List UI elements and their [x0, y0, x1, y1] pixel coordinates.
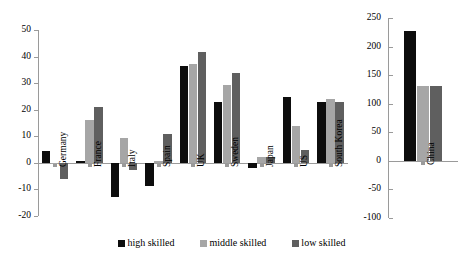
y-tick-label-1-1: 200 — [355, 42, 381, 52]
x-category-label-sweden: Sweden — [231, 137, 241, 167]
y-axis-line-1 — [388, 18, 389, 218]
x-category-label-france: France — [94, 141, 104, 167]
y-tick-1-3 — [389, 104, 393, 105]
bar-uk-low — [198, 52, 207, 163]
x-tick-0-2 — [122, 164, 126, 167]
legend-label: low skilled — [301, 238, 345, 248]
x-category-label-japan: Japan — [266, 145, 276, 167]
legend-label: high skilled — [127, 238, 174, 248]
x-tick-0-0 — [53, 164, 57, 167]
bar-japan-high — [248, 163, 257, 168]
y-tick-label-1-0: 250 — [355, 13, 381, 23]
x-category-label-germany: Germany — [59, 132, 69, 167]
bar-south-korea-high — [317, 102, 326, 163]
legend-item-low: low skilled — [292, 238, 345, 248]
y-tick-label-0-1: 40 — [5, 52, 31, 62]
y-tick-0-3 — [34, 110, 38, 111]
x-tick-0-7 — [294, 164, 298, 167]
y-tick-0-1 — [34, 57, 38, 58]
y-tick-1-0 — [389, 18, 393, 19]
y-tick-1-7 — [389, 218, 393, 219]
legend-item-high: high skilled — [118, 238, 174, 248]
y-tick-label-1-2: 150 — [355, 70, 381, 80]
y-tick-1-6 — [389, 189, 393, 190]
x-category-label-south-korea: South Korea — [335, 119, 345, 167]
x-category-label-china: China — [427, 142, 437, 165]
y-tick-label-1-5: 0 — [355, 156, 381, 166]
bar-germany-high — [42, 151, 51, 163]
legend-swatch-middle-icon — [200, 240, 207, 247]
y-tick-label-1-6: -50 — [355, 184, 381, 194]
x-category-label-spain: Spain — [163, 145, 173, 167]
x-tick-0-6 — [260, 164, 264, 167]
y-tick-label-0-0: 50 — [5, 25, 31, 35]
y-tick-label-0-3: 20 — [5, 105, 31, 115]
y-tick-label-0-4: 10 — [5, 131, 31, 141]
x-tick-0-3 — [157, 164, 161, 167]
y-tick-label-1-7: -100 — [355, 213, 381, 223]
y-tick-0-2 — [34, 83, 38, 84]
y-tick-0-6 — [34, 189, 38, 190]
y-tick-label-1-3: 100 — [355, 99, 381, 109]
bar-uk-middle — [189, 64, 198, 163]
bar-china-high — [404, 31, 417, 161]
y-tick-1-1 — [389, 47, 393, 48]
bar-us-high — [283, 97, 292, 163]
x-tick-0-1 — [88, 164, 92, 167]
legend-label: middle skilled — [209, 238, 266, 248]
y-tick-1-2 — [389, 75, 393, 76]
x-tick-0-8 — [329, 164, 333, 167]
chart-legend: high skilledmiddle skilledlow skilled — [0, 238, 464, 248]
bar-france-high — [76, 161, 85, 163]
x-tick-1-0 — [421, 162, 425, 165]
x-category-label-us: US — [300, 155, 310, 167]
y-tick-0-4 — [34, 136, 38, 137]
chart-root: 50403020100-10-20GermanyFranceItalySpain… — [0, 0, 464, 260]
y-tick-label-0-7: -20 — [5, 211, 31, 221]
y-tick-0-0 — [34, 30, 38, 31]
x-category-label-uk: UK — [197, 153, 207, 167]
y-tick-label-0-5: 0 — [5, 158, 31, 168]
x-tick-0-5 — [225, 164, 229, 167]
bar-italy-high — [111, 163, 120, 198]
legend-swatch-high-icon — [118, 240, 125, 247]
legend-swatch-low-icon — [292, 240, 299, 247]
x-tick-0-4 — [191, 164, 195, 167]
bar-sweden-high — [214, 102, 223, 163]
x-category-label-italy: Italy — [128, 150, 138, 167]
y-tick-label-0-6: -10 — [5, 184, 31, 194]
y-tick-0-7 — [34, 216, 38, 217]
bar-spain-high — [145, 163, 154, 186]
legend-item-middle: middle skilled — [200, 238, 266, 248]
bar-uk-high — [180, 66, 189, 163]
y-axis-line-0 — [38, 30, 39, 216]
y-tick-label-0-2: 30 — [5, 78, 31, 88]
y-tick-1-4 — [389, 132, 393, 133]
y-tick-label-1-4: 50 — [355, 127, 381, 137]
